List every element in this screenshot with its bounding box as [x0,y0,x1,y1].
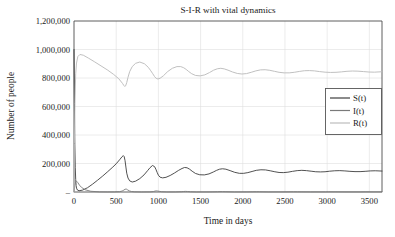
x-tick-label: 1000 [150,196,167,206]
x-tick-label: 3500 [361,196,378,206]
sir-line-chart: 0500100015002000250030003500 –200,000400… [0,0,395,237]
x-tick-label: 1500 [192,196,209,206]
y-tick-label: 600,000 [42,102,70,112]
x-tick-label: 0 [72,196,76,206]
x-axis-title: Time in days [204,216,253,226]
y-tick-label: 200,000 [42,159,70,169]
x-axis-tick-labels: 0500100015002000250030003500 [72,196,378,206]
legend-label-rt: R(t) [353,118,367,128]
chart-title: S-I-R with vital dynamics [180,5,276,15]
chart-figure: 0500100015002000250030003500 –200,000400… [0,0,395,237]
x-tick-label: 3000 [319,196,336,206]
x-tick-label: 2500 [276,196,293,206]
y-tick-label: 1,200,000 [36,16,70,26]
chart-legend[interactable]: S(t)I(t)R(t) [326,89,382,135]
y-tick-label: 1,000,000 [36,45,70,55]
legend-label-it: I(t) [353,106,364,116]
y-tick-label: 800,000 [42,73,70,83]
x-tick-label: 500 [110,196,123,206]
legend-entries: S(t)I(t)R(t) [330,93,367,128]
y-tick-label: 400,000 [42,130,70,140]
x-tick-label: 2000 [234,196,251,206]
y-axis-title: Number of people [6,72,16,140]
series-line-it [74,181,382,192]
legend-label-st: S(t) [353,93,366,103]
y-tick-label: – [65,187,71,197]
y-axis-tick-labels: –200,000400,000600,000800,0001,000,0001,… [36,16,71,197]
